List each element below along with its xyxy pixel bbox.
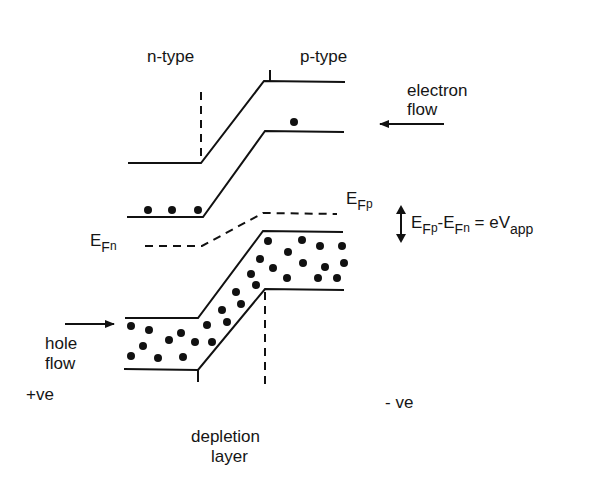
conduction-band-upper (128, 81, 345, 163)
fermi-level-p-label: EFp (346, 190, 373, 209)
p-type-label: p-type (300, 48, 347, 66)
n-type-label: n-type (147, 48, 194, 66)
valence-band-edge (125, 231, 343, 318)
fermi-level-n-label: EFn (90, 232, 117, 251)
depletion-layer-label-1: depletion (191, 428, 260, 446)
electron-flow-label-2: flow (407, 101, 437, 119)
electron-flow-label-1: electron (407, 82, 467, 100)
double-arrow-icon (396, 205, 406, 243)
holes (127, 236, 348, 362)
applied-voltage-equation: EFp-EFn = eVapp (411, 214, 533, 233)
hole-flow-label-2: flow (45, 355, 75, 373)
conduction-band-edge (127, 131, 344, 217)
positive-terminal-label: +ve (26, 386, 54, 404)
electrons (144, 118, 298, 214)
negative-terminal-label: - ve (385, 394, 413, 412)
hole-flow-label-1: hole (45, 335, 77, 353)
depletion-layer-label-2: layer (211, 448, 248, 466)
